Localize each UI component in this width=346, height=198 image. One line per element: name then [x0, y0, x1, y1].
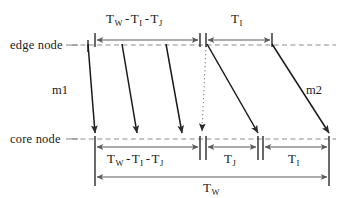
- sub-W: W: [114, 18, 123, 28]
- timing-diagram: edge node core node m1 m2 TW-TI-TJ TI TW…: [0, 0, 346, 198]
- top-right-dimension-label: TI: [231, 12, 242, 25]
- edge-tick-marks: [88, 33, 272, 52]
- message-label-m1: m1: [52, 84, 68, 97]
- term-T: T: [203, 180, 211, 195]
- term-T: T: [288, 151, 296, 166]
- message-arrow-3: [166, 44, 182, 133]
- term-T: T: [107, 151, 115, 166]
- bottom-mid-dimension-label: TJ: [224, 152, 236, 165]
- sub-J: J: [232, 158, 236, 168]
- message-arrow-m1: [88, 44, 95, 133]
- bottom-left-dimension-label: TW-TI-TJ: [107, 152, 163, 165]
- sub-I: I: [296, 158, 299, 168]
- sub-W: W: [115, 158, 124, 168]
- sub-W: W: [211, 187, 220, 197]
- term-T: T: [106, 11, 114, 26]
- message-arrow-dotted: [202, 46, 206, 131]
- sub-J: J: [158, 18, 162, 28]
- diagram-canvas: [0, 0, 346, 198]
- edge-node-label: edge node: [10, 39, 63, 52]
- message-label-m2: m2: [306, 84, 322, 97]
- term-T: T: [231, 11, 239, 26]
- sub-I: I: [140, 158, 143, 168]
- term-T: T: [224, 151, 232, 166]
- message-arrow-2: [122, 44, 137, 133]
- term-T: T: [132, 151, 140, 166]
- sub-I: I: [139, 18, 142, 28]
- op-minus: -: [123, 151, 131, 166]
- sub-I: I: [239, 18, 242, 28]
- bottom-total-dimension-label: TW: [203, 181, 219, 194]
- term-T: T: [131, 11, 139, 26]
- op-minus: -: [122, 11, 130, 26]
- bottom-right-dimension-label: TI: [288, 152, 299, 165]
- core-node-label: core node: [10, 133, 61, 146]
- message-arrow-5: [207, 44, 258, 133]
- top-left-dimension-label: TW-TI-TJ: [106, 12, 162, 25]
- sub-J: J: [159, 158, 163, 168]
